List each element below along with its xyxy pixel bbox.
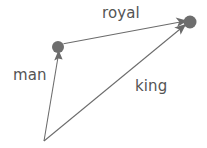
edge-label-man: man (13, 68, 47, 83)
vector-royal-line (64, 22, 184, 44)
vector-king-arrowhead (174, 24, 186, 35)
edge-label-king: king (135, 79, 167, 94)
vector-diagram-canvas: royal man king (0, 0, 207, 148)
node-dot-man (52, 41, 64, 53)
node-dot-king (184, 16, 197, 29)
edge-label-royal: royal (102, 6, 140, 21)
